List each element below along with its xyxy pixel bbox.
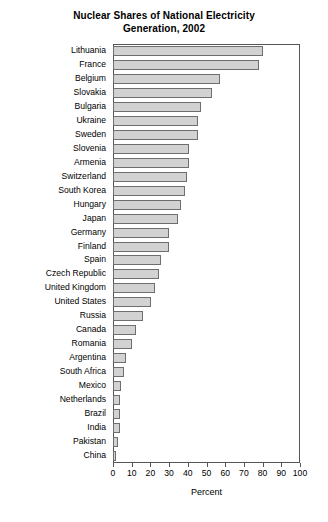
x-axis-ticks: 0102030405060708090100: [113, 463, 300, 483]
category-label: India: [87, 423, 106, 432]
category-label: Brazil: [85, 409, 107, 418]
category-label: Slovenia: [73, 144, 106, 153]
category-label: Pakistan: [73, 437, 106, 446]
category-label: Sweden: [75, 130, 106, 139]
x-tick-mark: [263, 463, 264, 467]
x-tick-mark: [150, 463, 151, 467]
bar: [113, 200, 181, 210]
x-tick-mark: [225, 463, 226, 467]
x-tick-mark: [300, 463, 301, 467]
bar: [113, 186, 185, 196]
category-label: Mexico: [79, 381, 106, 390]
category-label: South Korea: [58, 186, 106, 195]
bar: [113, 311, 143, 321]
bar: [113, 144, 189, 154]
category-label: China: [84, 451, 106, 460]
category-axis-labels: LithuaniaFranceBelgiumSlovakiaBulgariaUk…: [0, 44, 110, 463]
bar: [113, 297, 151, 307]
chart-title: Nuclear Shares of National Electricity G…: [0, 10, 328, 35]
bars-layer: [113, 44, 300, 463]
category-label: Hungary: [74, 200, 106, 209]
bar: [113, 172, 187, 182]
bar: [113, 116, 198, 126]
bar: [113, 74, 220, 84]
category-label: Armenia: [74, 158, 106, 167]
x-tick-mark: [188, 463, 189, 467]
bar: [113, 451, 116, 461]
bar: [113, 269, 159, 279]
category-label: Netherlands: [60, 395, 106, 404]
category-label: Argentina: [69, 353, 106, 362]
bar: [113, 423, 120, 433]
category-label: Bulgaria: [74, 102, 106, 111]
x-tick-mark: [169, 463, 170, 467]
bar: [113, 46, 263, 56]
category-label: United States: [54, 297, 106, 306]
category-label: Lithuania: [71, 46, 106, 55]
bar: [113, 228, 169, 238]
category-label: Russia: [80, 311, 106, 320]
x-axis-title: Percent: [113, 487, 300, 497]
bar: [113, 255, 161, 265]
bar: [113, 381, 121, 391]
chart-title-line-2: Generation, 2002: [0, 23, 328, 36]
x-tick-label: 100: [288, 468, 312, 478]
bar: [113, 353, 126, 363]
chart-title-line-1: Nuclear Shares of National Electricity: [0, 10, 328, 23]
category-label: Canada: [76, 325, 106, 334]
bar: [113, 325, 136, 335]
category-label: United Kingdom: [45, 283, 106, 292]
category-label: Japan: [83, 214, 106, 223]
bar: [113, 102, 201, 112]
bar: [113, 367, 124, 377]
category-label: Germany: [71, 228, 106, 237]
category-label: Finland: [78, 242, 106, 251]
category-label: Spain: [84, 255, 106, 264]
bar: [113, 437, 118, 447]
bar: [113, 88, 212, 98]
bar: [113, 409, 120, 419]
x-tick-mark: [281, 463, 282, 467]
x-tick-mark: [113, 463, 114, 467]
bar: [113, 395, 120, 405]
category-label: Czech Republic: [46, 269, 106, 278]
x-tick-mark: [244, 463, 245, 467]
category-label: Switzerland: [62, 172, 106, 181]
bar: [113, 339, 132, 349]
category-label: France: [79, 60, 106, 69]
category-label: Ukraine: [76, 116, 106, 125]
bar: [113, 283, 155, 293]
bar: [113, 214, 178, 224]
category-label: South Africa: [60, 367, 106, 376]
category-label: Slovakia: [74, 88, 106, 97]
bar: [113, 60, 259, 70]
chart-figure: Nuclear Shares of National Electricity G…: [0, 0, 328, 522]
category-label: Romania: [72, 339, 106, 348]
x-tick-mark: [207, 463, 208, 467]
bar: [113, 158, 189, 168]
bar: [113, 242, 169, 252]
x-tick-mark: [132, 463, 133, 467]
category-label: Belgium: [75, 74, 106, 83]
bar: [113, 130, 198, 140]
